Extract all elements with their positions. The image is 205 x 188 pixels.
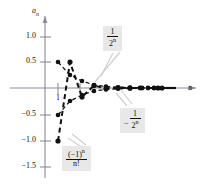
x-axis-label: n	[188, 83, 192, 92]
fraction-pos: 1 2n	[107, 28, 118, 48]
fraction-fact-numerator: (−1)n	[66, 148, 87, 159]
fraction-fact-num-exp: n	[82, 148, 85, 154]
fraction-fact-num-base: (−1)	[68, 150, 82, 159]
series-pos-half-power	[56, 60, 166, 90]
callout-neg-series: − 1 2n	[120, 108, 145, 133]
fraction-fact: (−1)n n!	[66, 148, 87, 168]
series-neg-half-power	[56, 86, 166, 118]
callout-pos-series: 1 2n	[103, 26, 122, 51]
fraction-pos-den-exp: n	[113, 37, 116, 43]
x-tick-label-1: 1	[52, 93, 64, 102]
fraction-neg-numerator: 1	[130, 110, 141, 118]
sequence-plot-figure: 1.0 0.5 −0.5 −1.0 −1.5 1 an n 1 2n − 1 2…	[0, 0, 205, 188]
fraction-neg-denominator: 2n	[130, 118, 141, 130]
y-axis-label-sub: n	[36, 11, 39, 17]
callout-leaders	[68, 52, 132, 148]
y-tick-label-3: −0.5	[2, 109, 36, 118]
y-tick-label-4: −1.0	[2, 135, 36, 144]
fraction-pos-denominator: 2n	[107, 36, 118, 48]
fraction-pos-numerator: 1	[107, 28, 118, 36]
fraction-neg-den-exp: n	[136, 119, 139, 125]
y-axis-label: an	[32, 6, 39, 17]
y-tick-label-1: 1.0	[6, 31, 36, 40]
y-tick-label-5: −1.5	[2, 161, 36, 170]
callout-factorial-series: (−1)n n!	[62, 146, 91, 171]
fraction-fact-denominator: n!	[66, 159, 87, 168]
y-tick-label-2: 0.5	[6, 56, 36, 65]
minus-sign-neg: −	[124, 120, 129, 128]
fraction-neg: 1 2n	[130, 110, 141, 130]
